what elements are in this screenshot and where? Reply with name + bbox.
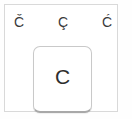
base-key-label: C [34, 47, 91, 107]
accent-variant-popup: Č Ç Ć C [4, 4, 118, 112]
keyboard-accent-picker-screen: Č Ç Ć C [0, 0, 132, 119]
accent-option-row: Č Ç Ć [5, 5, 119, 43]
accent-option-c-cedilla[interactable]: Ç [50, 9, 76, 35]
base-key-c[interactable]: C [33, 46, 92, 113]
accent-option-c-acute[interactable]: Ć [94, 9, 120, 35]
accent-option-c-caron[interactable]: Č [6, 9, 32, 35]
